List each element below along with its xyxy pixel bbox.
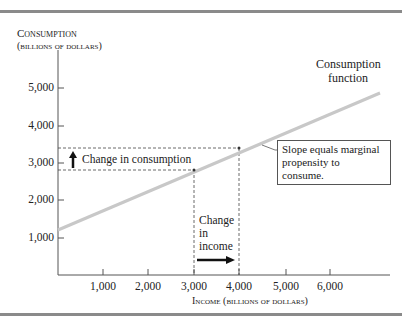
slope-callout-line2: propensity to: [282, 156, 386, 169]
x-tick-label: 5,000: [266, 280, 306, 293]
curve-label-line2: function: [328, 71, 368, 85]
slope-callout-line3: consume.: [282, 169, 386, 182]
point-4000: [238, 147, 241, 150]
dashed-guides: [58, 148, 239, 275]
point-3000: [193, 169, 196, 172]
x-tick-label: 6,000: [310, 280, 350, 293]
x-tick-label: 2,000: [128, 280, 168, 293]
y-tick-label: 5,000: [4, 81, 54, 94]
y-ticks: [58, 88, 64, 238]
change-income-line3: income: [199, 240, 233, 253]
x-ticks: [103, 269, 330, 275]
x-tick-label: 3,000: [174, 280, 214, 293]
x-tick-label: 1,000: [83, 280, 123, 293]
x-tick-label: 4,000: [219, 280, 259, 293]
curve-label-line1: Consumption: [316, 57, 381, 71]
right-arrow-icon: [197, 256, 235, 264]
up-arrow-icon: [69, 151, 77, 168]
y-tick-label: 1,000: [4, 231, 54, 244]
y-tick-label: 4,000: [4, 119, 54, 132]
change-income-line2: in: [199, 227, 208, 240]
x-axis-label: Income (billions of dollars): [192, 294, 308, 307]
change-consumption-label: Change in consumption: [82, 153, 191, 166]
slope-callout-box: Slope equals marginal propensity to cons…: [277, 140, 391, 185]
y-axis-label-line2: (billions of dollars): [17, 39, 102, 52]
change-income-line1: Change: [199, 214, 234, 227]
y-tick-label: 2,000: [4, 193, 54, 206]
y-tick-label: 3,000: [4, 156, 54, 169]
slope-callout-line1: Slope equals marginal: [282, 143, 386, 156]
